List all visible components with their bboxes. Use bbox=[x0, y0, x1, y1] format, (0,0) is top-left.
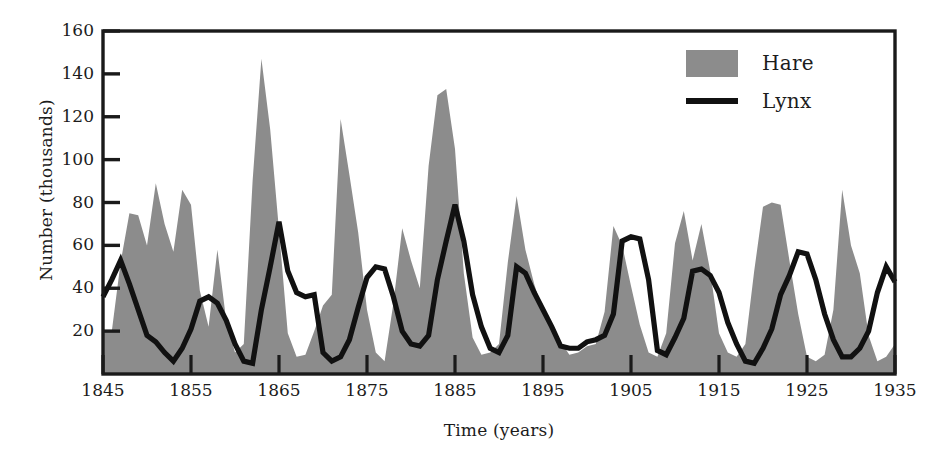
legend-label-lynx: Lynx bbox=[748, 89, 812, 113]
x-tick-label: 1935 bbox=[860, 382, 927, 399]
x-tick-label: 1925 bbox=[772, 382, 842, 399]
x-tick-label: 1905 bbox=[596, 382, 666, 399]
hare-swatch-area bbox=[686, 50, 748, 77]
population-cycle-chart: Number (thousands) 16014012010080604020 … bbox=[0, 0, 927, 472]
legend-label-hare: Hare bbox=[748, 51, 814, 75]
hare-color-swatch-icon bbox=[686, 50, 738, 77]
x-tick-label: 1885 bbox=[420, 382, 490, 399]
x-tick-label: 1855 bbox=[156, 382, 226, 399]
legend-item-hare: Hare bbox=[686, 44, 866, 82]
x-tick-label: 1865 bbox=[244, 382, 314, 399]
lynx-line-swatch-icon bbox=[686, 98, 738, 104]
x-tick-label: 1915 bbox=[684, 382, 754, 399]
x-tick-label-group: 1845185518651875188518951905191519251935 bbox=[0, 382, 927, 408]
x-tick-label: 1845 bbox=[68, 382, 138, 399]
x-tick-label: 1875 bbox=[332, 382, 402, 399]
x-axis-title: Time (years) bbox=[103, 420, 895, 440]
legend-item-lynx: Lynx bbox=[686, 82, 866, 120]
x-tick-label: 1895 bbox=[508, 382, 578, 399]
chart-legend: Hare Lynx bbox=[686, 44, 866, 120]
lynx-swatch-area bbox=[686, 98, 748, 104]
